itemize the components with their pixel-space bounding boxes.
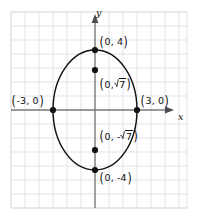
label-focus-upper-radicand: 7 [119, 78, 127, 89]
label-covertex-right-text: 3, 0 [146, 95, 165, 106]
label-covertex-left-text: -3, 0 [17, 95, 39, 106]
graph-canvas [0, 0, 198, 219]
point-covertex-left [50, 107, 56, 113]
point-focus-upper [92, 67, 98, 73]
label-covertex-right-open-paren: ( [141, 96, 145, 107]
label-covertex-left-open-paren: ( [12, 96, 16, 107]
label-focus-lower: (0, - 7) [99, 130, 139, 143]
x-axis-label: x [178, 112, 183, 122]
label-focus-upper: (0, 7) [99, 78, 132, 91]
label-focus-upper-open-paren: ( [100, 79, 104, 90]
label-focus-lower-close-paren: ) [134, 131, 138, 142]
label-vertex-bottom: (0, -4) [99, 173, 132, 184]
y-axis-label: y [96, 8, 101, 18]
label-focus-lower-open-paren: ( [100, 131, 104, 142]
label-vertex-bottom-open-paren: ( [100, 173, 104, 184]
label-focus-upper-prefix: 0, [105, 80, 114, 90]
label-covertex-left: (-3, 0) [11, 96, 44, 107]
label-focus-lower-prefix: 0, - [105, 132, 121, 142]
label-vertex-top-open-paren: ( [100, 37, 104, 48]
label-vertex-top: (0, 4) [99, 37, 129, 48]
point-focus-lower [92, 147, 98, 153]
point-vertex-top [92, 47, 98, 53]
point-vertex-bottom [92, 167, 98, 173]
label-focus-upper-close-paren: ) [127, 79, 131, 90]
label-covertex-right-close-paren: ) [165, 96, 169, 107]
label-vertex-bottom-text: 0, -4 [105, 172, 127, 183]
radical-sign-icon [114, 79, 119, 87]
point-covertex-right [134, 107, 140, 113]
label-vertex-top-text: 0, 4 [105, 36, 124, 47]
radical-icon-upper: 7 [114, 78, 127, 89]
label-focus-lower-radicand: 7 [125, 130, 133, 141]
radical-sign-icon [120, 131, 125, 139]
label-vertex-bottom-close-paren: ) [127, 173, 131, 184]
label-covertex-left-close-paren: ) [39, 96, 43, 107]
label-vertex-top-close-paren: ) [124, 37, 128, 48]
label-covertex-right: (3, 0) [140, 96, 170, 107]
ellipse-figure: (0, 4) (0, 7) (0, - 7) (0, -4) (-3, 0) (… [0, 0, 198, 219]
radical-icon-lower: 7 [120, 130, 133, 141]
